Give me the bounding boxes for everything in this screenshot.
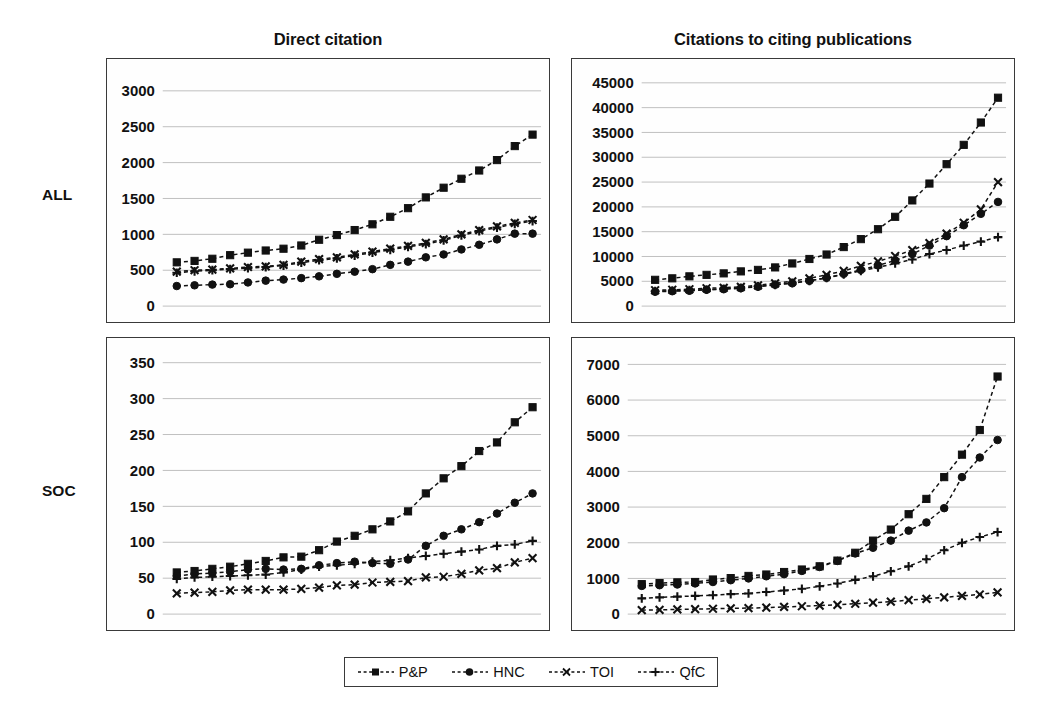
chart-legend: P&P HNC TOI QfC — [344, 657, 718, 687]
svg-text:40000: 40000 — [592, 100, 633, 116]
svg-text:250: 250 — [130, 427, 155, 443]
chart-panel-soc-direct-citation: 050100150200250300350 — [106, 337, 550, 631]
svg-text:35000: 35000 — [592, 125, 633, 141]
plus-marker-icon — [637, 666, 675, 678]
svg-text:15000: 15000 — [592, 224, 633, 240]
column-title-direct-citation: Direct citation — [108, 30, 548, 49]
chart-panel-soc-citations-to-citing: 01000200030004000500060007000 — [571, 337, 1015, 631]
svg-text:3000: 3000 — [587, 499, 620, 515]
svg-text:100: 100 — [130, 534, 155, 550]
svg-text:350: 350 — [130, 355, 155, 371]
svg-text:500: 500 — [130, 262, 155, 278]
svg-text:2000: 2000 — [587, 535, 620, 551]
svg-text:2500: 2500 — [122, 119, 155, 135]
square-marker-icon — [357, 666, 395, 678]
figure-panel-grid: Direct citation Citations to citing publ… — [0, 0, 1037, 720]
legend-item-pp: P&P — [357, 664, 428, 680]
svg-text:0: 0 — [146, 298, 154, 314]
svg-text:2000: 2000 — [122, 155, 155, 171]
svg-text:1500: 1500 — [122, 191, 155, 207]
svg-text:6000: 6000 — [587, 392, 620, 408]
svg-text:0: 0 — [146, 606, 154, 622]
x-marker-icon — [548, 666, 586, 678]
svg-text:150: 150 — [130, 499, 155, 515]
chart-svg-soc-citations-to-citing: 01000200030004000500060007000 — [572, 338, 1014, 630]
svg-text:300: 300 — [130, 391, 155, 407]
row-label-all: ALL — [42, 186, 72, 204]
chart-panel-all-direct-citation: 050010001500200025003000 — [106, 58, 550, 323]
svg-text:5000: 5000 — [601, 273, 634, 289]
legend-label-toi: TOI — [590, 664, 614, 680]
svg-text:3000: 3000 — [122, 83, 155, 99]
svg-text:1000: 1000 — [122, 227, 155, 243]
svg-text:200: 200 — [130, 463, 155, 479]
svg-text:0: 0 — [625, 298, 633, 314]
svg-text:5000: 5000 — [587, 428, 620, 444]
legend-label-pp: P&P — [399, 664, 428, 680]
chart-svg-all-direct-citation: 050010001500200025003000 — [107, 59, 549, 322]
svg-text:20000: 20000 — [592, 199, 633, 215]
svg-text:1000: 1000 — [587, 571, 620, 587]
svg-text:50: 50 — [138, 570, 155, 586]
legend-item-hnc: HNC — [451, 664, 524, 680]
svg-text:25000: 25000 — [592, 174, 633, 190]
svg-text:45000: 45000 — [592, 75, 633, 91]
svg-text:7000: 7000 — [587, 357, 620, 373]
legend-label-qfc: QfC — [679, 664, 705, 680]
chart-panel-all-citations-to-citing: 0500010000150002000025000300003500040000… — [571, 58, 1015, 323]
legend-label-hnc: HNC — [493, 664, 524, 680]
legend-item-toi: TOI — [548, 664, 614, 680]
chart-svg-all-citations-to-citing: 0500010000150002000025000300003500040000… — [572, 59, 1014, 322]
svg-text:10000: 10000 — [592, 249, 633, 265]
chart-svg-soc-direct-citation: 050100150200250300350 — [107, 338, 549, 630]
circle-marker-icon — [451, 666, 489, 678]
column-title-citations-to-citing-publications: Citations to citing publications — [573, 30, 1013, 49]
svg-text:0: 0 — [611, 606, 619, 622]
svg-text:30000: 30000 — [592, 149, 633, 165]
svg-text:4000: 4000 — [587, 464, 620, 480]
row-label-soc: SOC — [42, 482, 76, 500]
legend-item-qfc: QfC — [637, 664, 705, 680]
